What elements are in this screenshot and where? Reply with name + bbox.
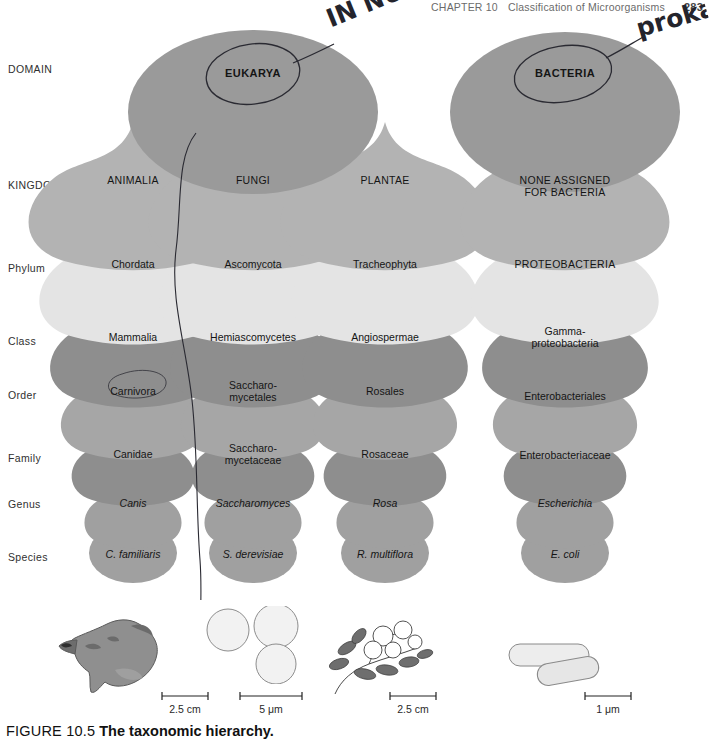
scale-caption-dog: 2.5 cm	[150, 703, 220, 715]
scale-caption-rose: 2.5 cm	[378, 703, 448, 715]
scale-bar-yeast	[238, 690, 304, 702]
scale-caption-bacterium: 1 μm	[573, 703, 643, 715]
domain-blob-bacteria	[450, 32, 680, 192]
scale-bar-dog	[160, 690, 210, 702]
illustration-rose	[325, 606, 445, 698]
scale-bar-rose	[388, 690, 438, 702]
illustration-yeast	[200, 606, 310, 684]
illustration-bacterium	[505, 638, 615, 698]
illustration-dog	[55, 608, 175, 698]
figure-caption-number: FIGURE 10.5	[6, 723, 95, 739]
scale-bar-bacterium	[583, 690, 633, 702]
scale-caption-yeast: 5 μm	[236, 703, 306, 715]
figure-page: CHAPTER 10 Classification of Microorgani…	[0, 0, 711, 746]
domain-blob-eukarya	[128, 30, 378, 194]
taxonomy-diagram	[0, 0, 711, 600]
figure-caption: FIGURE 10.5 The taxonomic hierarchy.	[6, 723, 274, 739]
figure-caption-text: The taxonomic hierarchy.	[99, 723, 274, 739]
